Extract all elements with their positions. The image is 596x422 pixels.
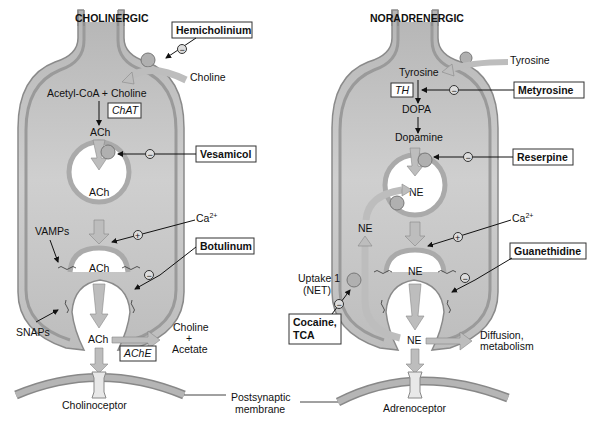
ne-fusing-vesicle-label: NE (408, 265, 423, 277)
cholinoceptor-icon (92, 372, 106, 398)
postsynaptic-membrane-label-line1: Postsynaptic (231, 391, 291, 403)
hemicholinium-drug-box[interactable]: Hemicholinium (172, 22, 252, 38)
reserpine-drug-box[interactable]: Reserpine (513, 149, 573, 165)
metyrosine-drug-box[interactable]: Metyrosine (514, 82, 584, 98)
svg-text:−: − (337, 300, 342, 310)
hemicholinium-label: Hemicholinium (176, 24, 251, 36)
cholinergic-title: CHOLINERGIC (75, 12, 149, 24)
dopa-label: DOPA (402, 103, 431, 115)
adrenoceptor-label: Adrenoceptor (383, 402, 447, 414)
svg-text:−: − (466, 153, 471, 163)
reserpine-label: Reserpine (517, 151, 568, 163)
cholinoceptor-label: Cholinoceptor (62, 399, 127, 411)
adrenoceptor-icon (408, 372, 422, 398)
ach-vesicle-label: ACh (89, 186, 110, 198)
tyrosine-external-label: Tyrosine (510, 54, 550, 66)
choline-external-label: Choline (190, 71, 226, 83)
snaps-label: SNAPs (16, 326, 50, 338)
svg-text:−: − (463, 274, 468, 284)
svg-text:TH: TH (395, 84, 409, 96)
guanethidine-drug-box[interactable]: Guanethidine (510, 243, 586, 259)
choline-transporter-icon (141, 53, 155, 67)
net-transporter-icon (347, 273, 361, 287)
noradrenergic-calcium-label: Ca2+ (512, 212, 533, 224)
chat-enzyme-box: ChAT (108, 103, 141, 118)
svg-text:−: − (148, 150, 153, 160)
ne-reuptake-label: NE (358, 222, 373, 234)
vesicle-reuptake-icon (390, 196, 404, 210)
guanethidine-label: Guanethidine (514, 245, 581, 257)
vesicle-transporter-icon (101, 145, 115, 159)
tyrosine-internal-label: Tyrosine (399, 66, 439, 78)
botulinum-label: Botulinum (200, 240, 252, 252)
vesamicol-label: Vesamicol (200, 148, 251, 160)
vamps-label: VAMPs (35, 225, 69, 237)
metyrosine-label: Metyrosine (518, 84, 574, 96)
noradrenergic-title: NORADRENERGIC (370, 12, 464, 24)
tca-label: TCA (293, 329, 315, 341)
neurotransmission-diagram: CHOLINERGIC Choline Hemicholinium − Acet… (0, 0, 596, 422)
ach-cleft-label: ACh (88, 333, 109, 345)
dopamine-label: Dopamine (395, 131, 443, 143)
ach-fusing-vesicle-label: ACh (89, 262, 110, 274)
svg-text:ChAT: ChAT (112, 104, 140, 116)
svg-text:+: + (135, 231, 140, 241)
acetylcoa-choline-label: Acetyl-CoA + Choline (47, 87, 147, 99)
ach-cytoplasm-label: ACh (90, 126, 111, 138)
postsynaptic-membrane-label-line2: membrane (235, 403, 285, 415)
cocaine-label: Cocaine, (293, 316, 337, 328)
ne-cleft-label: NE (407, 334, 422, 346)
svg-text:AChE: AChE (123, 347, 152, 359)
ne-vesicle-label: NE (409, 186, 424, 198)
uptake1-label-line2: (NET) (303, 284, 331, 296)
vesamicol-drug-box[interactable]: Vesamicol (196, 146, 256, 162)
botulinum-drug-box[interactable]: Botulinum (196, 238, 254, 254)
ache-enzyme-box: AChE (120, 346, 156, 361)
svg-text:+: + (455, 233, 460, 243)
uptake1-label-line1: Uptake 1 (298, 272, 340, 284)
svg-text:−: − (180, 45, 185, 55)
diffusion-label-line2: metabolism (480, 340, 534, 352)
th-enzyme-box: TH (391, 83, 413, 97)
vmat-transporter-icon (418, 153, 432, 167)
cocaine-tca-drug-box[interactable]: Cocaine, TCA (289, 314, 341, 344)
acetate-product-label: Acetate (172, 343, 208, 355)
svg-text:−: − (147, 271, 152, 281)
svg-text:−: − (452, 86, 457, 96)
cholinergic-calcium-label: Ca2+ (196, 212, 217, 224)
